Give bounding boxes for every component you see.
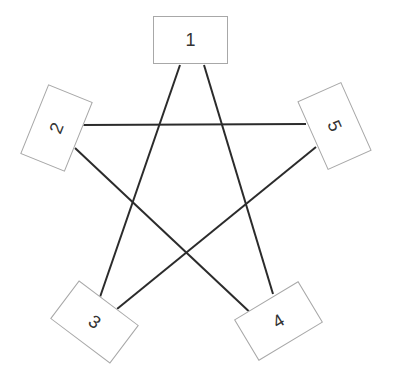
node-label: 5 xyxy=(322,117,345,135)
edge-1-4 xyxy=(204,65,273,294)
edge-5-3 xyxy=(117,147,316,309)
edge-2-5 xyxy=(83,124,306,125)
node-1: 1 xyxy=(153,16,228,64)
node-label: 2 xyxy=(44,119,67,136)
node-label: 4 xyxy=(268,309,287,332)
node-label: 1 xyxy=(185,30,195,51)
node-label: 3 xyxy=(84,311,105,334)
edge-1-3 xyxy=(100,65,180,297)
